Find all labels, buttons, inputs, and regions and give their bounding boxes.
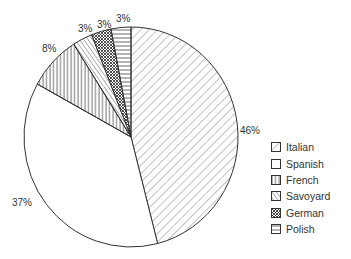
label-german: 3% (97, 19, 112, 30)
back-diagonal-hatch-swatch-icon (271, 191, 281, 201)
legend-item-german: German (271, 205, 330, 221)
label-polish: 3% (116, 13, 131, 24)
legend-item-italian: Italian (271, 139, 330, 155)
legend-item-polish: Polish (271, 221, 330, 237)
legend-item-savoyard: Savoyard (271, 188, 330, 204)
label-french: 8% (42, 43, 57, 54)
legend-item-spanish: Spanish (271, 155, 330, 171)
label-spanish: 37% (12, 197, 32, 208)
legend-label: Savoyard (286, 190, 330, 202)
pie-slices (24, 27, 238, 247)
crosshatch-swatch-icon (271, 208, 281, 218)
label-savoyard: 3% (78, 23, 93, 34)
horizontal-hatch-swatch-icon (271, 224, 281, 234)
legend-label: Spanish (286, 158, 324, 170)
legend-label: Polish (286, 223, 315, 235)
legend-label: German (286, 207, 324, 219)
label-italian: 46% (240, 125, 260, 136)
diagonal-hatch-swatch-icon (271, 142, 281, 152)
blank-swatch-icon (271, 159, 281, 169)
legend-label: French (286, 174, 319, 186)
legend-label: Italian (286, 141, 314, 153)
legend-item-french: French (271, 172, 330, 188)
vertical-hatch-swatch-icon (271, 175, 281, 185)
legend: Italian Spanish French Savoyard German P… (271, 139, 330, 237)
